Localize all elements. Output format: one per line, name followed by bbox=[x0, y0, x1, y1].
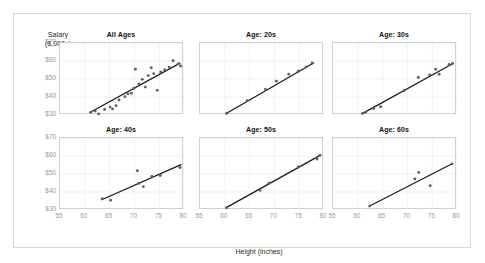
data-point bbox=[361, 112, 364, 115]
data-point bbox=[368, 205, 371, 208]
y-axis-tick-label: $60 bbox=[32, 57, 56, 63]
trend-line bbox=[369, 164, 452, 207]
x-axis-tick-label: 75 bbox=[151, 213, 165, 219]
data-point bbox=[264, 88, 267, 91]
data-point bbox=[179, 65, 182, 68]
data-point bbox=[118, 99, 121, 102]
x-axis-tick-label: 60 bbox=[77, 213, 91, 219]
x-axis-tick-label: 55 bbox=[192, 213, 206, 219]
data-point bbox=[448, 63, 451, 66]
x-axis-tick-label: 75 bbox=[424, 213, 438, 219]
data-point bbox=[311, 62, 314, 65]
data-point bbox=[316, 158, 319, 161]
data-point bbox=[134, 68, 137, 71]
data-point bbox=[97, 112, 100, 115]
data-point bbox=[141, 78, 144, 81]
data-point bbox=[147, 74, 150, 77]
plot-area bbox=[332, 42, 456, 114]
data-point bbox=[438, 73, 441, 76]
data-point bbox=[142, 185, 145, 188]
data-point bbox=[246, 99, 249, 102]
data-point bbox=[297, 70, 300, 73]
data-point bbox=[451, 62, 454, 65]
data-point bbox=[150, 175, 153, 178]
data-point bbox=[137, 82, 140, 85]
data-point bbox=[163, 68, 166, 71]
data-point bbox=[156, 89, 159, 92]
y-axis-tick-label: $60 bbox=[32, 152, 56, 158]
y-axis-tick-label: $40 bbox=[32, 93, 56, 99]
data-point bbox=[115, 104, 118, 107]
plot-area bbox=[59, 137, 183, 209]
x-axis-tick-label: 75 bbox=[291, 213, 305, 219]
data-point bbox=[103, 108, 106, 111]
data-point bbox=[109, 199, 112, 202]
data-point bbox=[124, 95, 127, 98]
data-point bbox=[417, 171, 420, 174]
data-point bbox=[434, 68, 437, 71]
y-axis-tick-label: $50 bbox=[32, 170, 56, 176]
x-axis-tick-label: 65 bbox=[375, 213, 389, 219]
data-point bbox=[372, 107, 375, 110]
y-axis-tick-label: $30 bbox=[32, 206, 56, 212]
x-axis-tick-label: 80 bbox=[449, 213, 463, 219]
data-point bbox=[152, 72, 155, 75]
panel-title: Age: 40s bbox=[59, 126, 183, 133]
x-axis-tick-label: 60 bbox=[350, 213, 364, 219]
x-axis-tick-label: 70 bbox=[399, 213, 413, 219]
data-point bbox=[177, 62, 180, 65]
data-point bbox=[150, 66, 153, 69]
data-point bbox=[319, 154, 322, 157]
x-axis-title: Height (inches) bbox=[204, 248, 314, 255]
panel-title: Age: 20s bbox=[199, 31, 323, 38]
data-point bbox=[259, 189, 262, 192]
plot-area bbox=[199, 42, 323, 114]
data-point bbox=[136, 169, 139, 172]
data-point bbox=[172, 59, 175, 62]
data-point bbox=[137, 182, 140, 185]
plot-area bbox=[199, 137, 323, 209]
x-axis-tick-label: 65 bbox=[102, 213, 116, 219]
x-axis-tick-label: 70 bbox=[126, 213, 140, 219]
y-axis-tick-label: $50 bbox=[32, 75, 56, 81]
data-point bbox=[451, 162, 454, 165]
data-point bbox=[144, 86, 147, 89]
panel-title: Age: 30s bbox=[332, 31, 456, 38]
data-point bbox=[225, 112, 228, 115]
data-point bbox=[89, 111, 92, 114]
data-point bbox=[109, 106, 112, 109]
data-point bbox=[225, 206, 228, 209]
data-point bbox=[111, 107, 114, 110]
y-axis-tick-label: $30 bbox=[32, 111, 56, 117]
data-point bbox=[101, 197, 104, 200]
data-point bbox=[168, 66, 171, 69]
panel-title: All Ages bbox=[59, 31, 183, 38]
data-point bbox=[364, 111, 367, 114]
y-axis-tick-label: $70 bbox=[32, 39, 56, 45]
data-point bbox=[94, 110, 97, 113]
x-axis-tick-label: 80 bbox=[176, 213, 190, 219]
data-point bbox=[417, 76, 420, 79]
y-axis-tick-label: $40 bbox=[32, 188, 56, 194]
panel-title: Age: 60s bbox=[332, 126, 456, 133]
trend-line bbox=[226, 63, 314, 114]
data-point bbox=[379, 105, 382, 108]
data-point bbox=[287, 73, 290, 76]
data-point bbox=[429, 184, 432, 187]
data-point bbox=[179, 166, 182, 169]
data-point bbox=[267, 182, 270, 185]
data-point bbox=[305, 65, 308, 68]
x-axis-tick-label: 70 bbox=[266, 213, 280, 219]
data-point bbox=[402, 89, 405, 92]
plot-area bbox=[332, 137, 456, 209]
trend-line bbox=[226, 155, 321, 208]
x-axis-tick-label: 65 bbox=[242, 213, 256, 219]
chart-frame: Salary ($,000s) Height (inches) All Ages… bbox=[13, 13, 471, 248]
data-point bbox=[132, 87, 135, 90]
x-axis-tick-label: 55 bbox=[52, 213, 66, 219]
data-point bbox=[130, 92, 133, 95]
data-point bbox=[159, 174, 162, 177]
panel-title: Age: 50s bbox=[199, 126, 323, 133]
data-point bbox=[413, 178, 416, 181]
trend-line bbox=[102, 165, 181, 200]
